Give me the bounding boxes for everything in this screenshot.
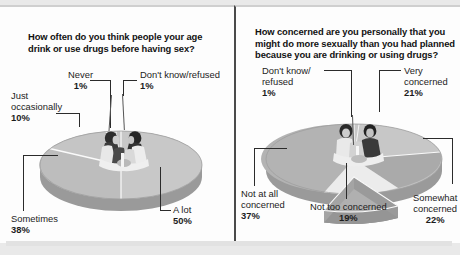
leader-notatall-v xyxy=(254,148,255,186)
leader-alot-v xyxy=(160,167,161,211)
panel-bottom-shadow xyxy=(6,241,452,246)
label-r-dont-know: Don't know/ refused 1% xyxy=(262,65,311,99)
label-not-at-all-pct: 37% xyxy=(241,210,285,221)
label-very-concerned: Very concerned 21% xyxy=(404,65,448,99)
label-a-lot-name: A lot xyxy=(173,204,191,215)
label-not-too-pct: 19% xyxy=(310,212,387,223)
leader-somewhat-h xyxy=(423,138,453,139)
label-somewhat-line1: Somewhat xyxy=(413,192,457,203)
label-sometimes: Sometimes 38% xyxy=(11,213,58,235)
label-very-concerned-line1: Very xyxy=(404,65,423,76)
label-never-pct: 1% xyxy=(68,80,93,91)
label-just-occasionally: Just occasionally 10% xyxy=(11,90,62,124)
label-sometimes-name: Sometimes xyxy=(11,213,58,224)
label-dont-know-name: Don't know/refused xyxy=(140,69,220,80)
leader-occasionally-v xyxy=(79,113,80,127)
left-center-photo xyxy=(94,129,154,173)
leader-dontknow-h xyxy=(123,80,137,81)
label-not-too-name: Not too concerned xyxy=(310,201,387,212)
label-somewhat-concerned: Somewhat concerned 22% xyxy=(413,192,457,226)
leader-alot-h xyxy=(160,210,171,211)
label-not-at-all-concerned: Not at all concerned 37% xyxy=(241,188,285,222)
leader-nottoo-v xyxy=(346,163,347,199)
leader-notatall-h xyxy=(254,148,287,149)
leader-r-dontknow-v xyxy=(351,70,352,117)
label-just-occasionally-line1: Just xyxy=(11,90,28,101)
label-r-dont-know-line2: refused xyxy=(262,76,293,87)
right-chart-title: How concerned are you personally that yo… xyxy=(255,26,455,61)
leader-never-h xyxy=(90,80,111,81)
label-somewhat-line2: concerned xyxy=(413,203,457,214)
label-very-concerned-pct: 21% xyxy=(404,87,448,98)
leader-r-dontknow-h xyxy=(324,70,352,71)
label-not-at-all-line1: Not at all xyxy=(241,188,278,199)
left-chart-panel: How often do you think people your age d… xyxy=(0,5,234,243)
leader-somewhat-v xyxy=(452,138,453,184)
label-not-too-concerned: Not too concerned 19% xyxy=(310,201,387,223)
label-a-lot: A lot 50% xyxy=(173,204,192,226)
label-r-dont-know-pct: 1% xyxy=(262,87,311,98)
label-r-dont-know-line1: Don't know/ xyxy=(262,65,311,76)
label-sometimes-pct: 38% xyxy=(11,224,58,235)
label-not-at-all-line2: concerned xyxy=(241,199,285,210)
label-never-name: Never xyxy=(68,69,93,80)
label-never: Never 1% xyxy=(68,69,93,91)
leader-dontknow xyxy=(123,80,124,96)
label-very-concerned-line2: concerned xyxy=(404,76,448,87)
leader-sometimes-h xyxy=(23,155,58,156)
label-dont-know-pct: 1% xyxy=(140,80,220,91)
leader-very-v xyxy=(379,70,380,112)
label-just-occasionally-line2: occasionally xyxy=(11,101,62,112)
leader-sometimes-v xyxy=(23,155,24,211)
right-center-photo xyxy=(328,121,388,169)
label-dont-know: Don't know/refused 1% xyxy=(140,69,220,91)
leader-very-h xyxy=(379,70,401,71)
left-chart-title: How often do you think people your age d… xyxy=(28,31,218,54)
right-chart-panel: How concerned are you personally that yo… xyxy=(234,5,460,243)
label-somewhat-pct: 22% xyxy=(413,214,457,225)
label-just-occasionally-pct: 10% xyxy=(11,112,62,123)
label-a-lot-pct: 50% xyxy=(173,215,192,226)
